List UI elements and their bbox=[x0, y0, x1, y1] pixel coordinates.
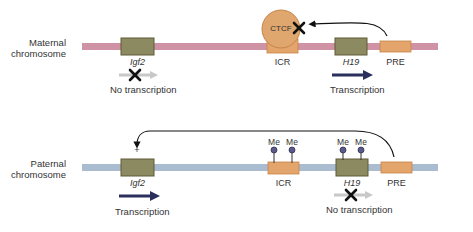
maternal-h19-status: Transcription bbox=[330, 84, 400, 95]
methyl-group-icons bbox=[271, 147, 364, 153]
maternal-enhancer-arrow bbox=[312, 23, 387, 36]
h19-methyl-label-2: Me bbox=[354, 137, 368, 147]
paternal-label-line1: Paternal bbox=[0, 158, 66, 169]
maternal-igf2-label: Igf2 bbox=[121, 57, 154, 67]
maternal-igf2-box bbox=[121, 38, 154, 55]
paternal-igf2-label: Igf2 bbox=[121, 178, 154, 188]
maternal-igf2-status: No transcription bbox=[110, 84, 180, 95]
paternal-h19-label: H19 bbox=[336, 178, 368, 188]
paternal-icr-box bbox=[268, 162, 299, 174]
paternal-icr-label: ICR bbox=[268, 178, 299, 188]
paternal-pre-label: PRE bbox=[381, 178, 412, 188]
paternal-igf2-box bbox=[121, 159, 154, 176]
maternal-pre-label: PRE bbox=[380, 57, 411, 67]
paternal-label-line2: chromosome bbox=[0, 169, 66, 180]
paternal-h19-status: No transcription bbox=[326, 204, 406, 215]
paternal-chromosome-label: Paternal chromosome bbox=[0, 158, 66, 180]
igf2-activation-plus: + bbox=[131, 145, 143, 155]
h19-methyl-label-1: Me bbox=[336, 137, 350, 147]
paternal-h19-box bbox=[336, 159, 368, 176]
icr-methyl-label-2: Me bbox=[285, 137, 299, 147]
paternal-igf2-status: Transcription bbox=[115, 206, 185, 217]
maternal-h19-label: H19 bbox=[335, 57, 367, 67]
maternal-chromosome-label: Maternal chromosome bbox=[0, 37, 66, 59]
ctcf-label: CTCF bbox=[264, 24, 298, 33]
maternal-label-line2: chromosome bbox=[0, 48, 66, 59]
maternal-h19-box bbox=[335, 38, 367, 55]
paternal-pre-box bbox=[381, 162, 412, 173]
maternal-pre-box bbox=[380, 41, 411, 52]
maternal-icr-label: ICR bbox=[267, 57, 298, 67]
icr-methyl-label-1: Me bbox=[267, 137, 281, 147]
diagram-canvas bbox=[0, 0, 473, 232]
maternal-label-line1: Maternal bbox=[0, 37, 66, 48]
